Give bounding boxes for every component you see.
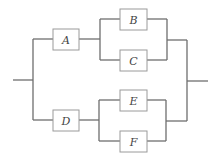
block-f: F <box>120 131 147 152</box>
reliability-block-diagram: A B C D E F <box>0 0 218 157</box>
input-connection <box>13 39 33 120</box>
output-connection <box>187 40 208 121</box>
block-d: D <box>53 110 79 131</box>
block-e: E <box>120 90 147 111</box>
block-f-label: F <box>129 136 138 149</box>
block-d-label: D <box>61 115 71 128</box>
block-b-label: B <box>128 14 137 27</box>
block-b: B <box>120 9 147 30</box>
block-e-label: E <box>128 95 137 108</box>
block-a-label: A <box>61 34 70 47</box>
block-c-label: C <box>129 55 138 68</box>
block-a: A <box>53 29 79 50</box>
block-c: C <box>120 50 147 71</box>
